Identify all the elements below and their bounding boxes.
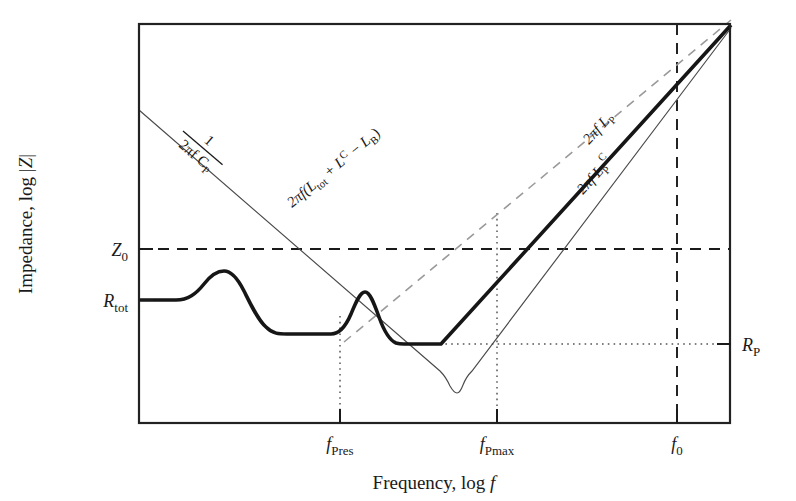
y-tick-rp-sub: P <box>753 344 760 359</box>
y-axis-title-text: Impedance, log | <box>15 168 36 294</box>
y-tick-rtot-sub: tot <box>114 300 128 315</box>
inductive-upper-annotation: 2πf LP <box>579 109 618 149</box>
x-tick-fpmax-sub: Pmax <box>485 443 515 458</box>
guide-lines <box>139 24 730 423</box>
capacitive-asymptote-line <box>139 28 731 393</box>
x-axis-title-symbol: f <box>490 472 498 493</box>
tick-marks <box>139 249 731 423</box>
y-tick-rp-base: R <box>741 335 753 355</box>
plot-frame <box>139 24 730 423</box>
y-axis-title-tail: | <box>15 154 36 158</box>
impedance-magnitude-curve <box>140 25 731 344</box>
impedance-vs-frequency-figure: Z0 Rtot RP fPres fPmax f0 Frequency, log… <box>0 0 796 501</box>
x-axis-title-text: Frequency, log <box>373 472 491 493</box>
x-tick-label-f-pmax: fPmax <box>480 434 515 458</box>
y-tick-rtot-base: R <box>102 291 114 311</box>
inductive-dashed-annotation: 2πf(Ltot + LC − LB) <box>282 123 384 213</box>
inductive-dashed-asymptote <box>344 20 731 342</box>
capacitive-numerator: 1 <box>201 132 217 149</box>
x-tick-label-f-zero: f0 <box>671 434 683 458</box>
y-tick-label-z0: Z0 <box>112 240 129 264</box>
inductive-upper-label-text: 2πf LP <box>579 109 618 149</box>
x-tick-fpres-sub: Pres <box>331 443 353 458</box>
y-axis-title-symbol: Z <box>15 157 36 168</box>
y-axis-title: Impedance, log |Z| <box>15 154 36 294</box>
y-tick-label-rp: RP <box>741 335 760 359</box>
figure-page: Z0 Rtot RP fPres fPmax f0 Frequency, log… <box>0 0 796 501</box>
x-axis-title: Frequency, log f <box>373 472 499 493</box>
y-tick-z0-sub: 0 <box>122 249 128 264</box>
capacitive-numerator-text: 1 <box>201 132 217 149</box>
y-tick-label-r-tot: Rtot <box>102 291 128 315</box>
x-tick-label-f-pres: fPres <box>326 434 353 458</box>
capacitive-branch-annotation: 1 2πf CP <box>169 117 234 180</box>
inductive-dashed-label-text: 2πf(Ltot + LC − LB) <box>282 123 384 213</box>
x-tick-f0-sub: 0 <box>676 443 682 458</box>
